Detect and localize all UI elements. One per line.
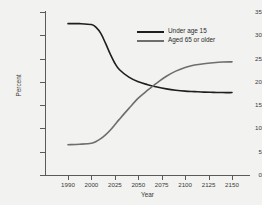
legend-swatch [137, 31, 164, 33]
legend-swatch [137, 40, 164, 42]
legend-label: Under age 15 [168, 27, 207, 34]
legend-label: Aged 65 or older [168, 36, 215, 43]
chart-figure: 35 30 25 20 15 10 5 0 Percent 1990 2000 … [0, 0, 262, 205]
series-line-aged-65-or-older [68, 62, 232, 145]
chart-legend: Under age 15 Aged 65 or older [137, 28, 237, 46]
legend-item-aged-65-or-older: Aged 65 or older [137, 37, 237, 46]
